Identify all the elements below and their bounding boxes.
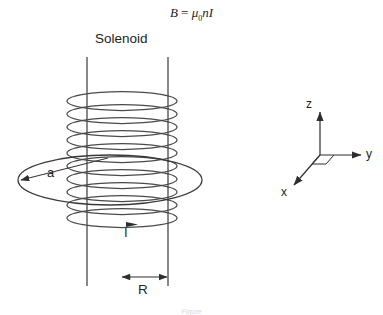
current-direction-arrow [126,222,138,227]
field-formula: B = μ0nI [0,6,383,23]
right-angle-marker [312,155,334,164]
gap-label: R [138,283,148,297]
formula-lhs: B [170,5,178,20]
figure-caption: Figure [0,308,383,315]
formula-tail: nI [202,5,213,20]
coordinate-axes [294,112,361,185]
diagram-canvas [0,0,383,315]
radius-label: a [47,166,54,179]
solenoid-diagram: B = μ0nI Solenoid a I R z y x Figure [0,0,383,315]
solenoid-title-label: Solenoid [95,32,148,46]
axis-z-label: z [306,98,312,110]
current-label: I [124,226,128,239]
formula-equals: = [181,5,188,20]
axis-y-label: y [366,148,372,160]
radius-arrow [21,158,108,180]
coil-turn [67,209,177,228]
axis-x-label: x [281,186,287,198]
